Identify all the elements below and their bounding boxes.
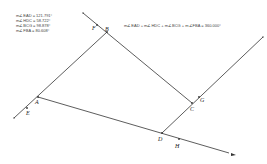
endpoint-top[interactable] [82, 12, 83, 13]
label-a: A [34, 99, 39, 105]
point-d[interactable] [161, 132, 163, 134]
endpoint-left[interactable] [13, 117, 14, 118]
line-d-c-g [162, 37, 263, 133]
line-ea-b [14, 32, 107, 118]
arrow-icon [231, 153, 236, 156]
endpoint-right[interactable] [262, 36, 263, 37]
label-f: F [91, 25, 96, 31]
point-a[interactable] [37, 96, 39, 98]
point-c[interactable] [191, 102, 193, 104]
measurement-list: m∠EAD = 121.791° m∠HDC = 58.722° m∠BCG =… [16, 13, 52, 33]
line-a-d-h [38, 97, 229, 153]
measurement-fba: m∠FBA = 80.608° [16, 28, 52, 33]
label-d: D [157, 136, 163, 142]
point-e[interactable] [26, 107, 28, 109]
sum-equation: m∠EAD + m∠HDC + m∠BCG + m∠FBA = 360.000° [124, 23, 221, 28]
label-e: E [25, 110, 30, 116]
point-f[interactable] [96, 24, 98, 26]
label-h: H [174, 143, 180, 149]
label-b: B [105, 26, 109, 32]
label-c: C [190, 106, 195, 112]
label-g: G [200, 97, 205, 103]
point-h[interactable] [178, 138, 180, 140]
